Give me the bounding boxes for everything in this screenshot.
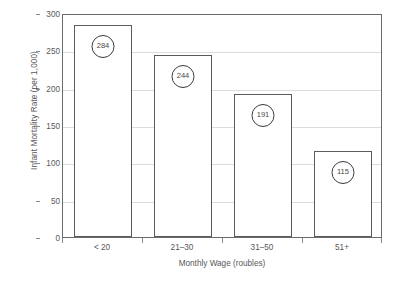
plot-area: 284244191115 [62, 14, 382, 238]
y-tick-mark [36, 89, 40, 90]
bar-chart-figure: Infant Mortality Rate (per 1,000) 050100… [0, 0, 402, 283]
bar[interactable]: 115 [314, 151, 372, 237]
x-tick-label: < 20 [94, 243, 110, 252]
bar-slot: 284 [63, 15, 143, 237]
y-tick-mark [36, 163, 40, 164]
y-axis-tick-labels: 050100150200250300 [36, 12, 60, 238]
bar-slot: 115 [303, 15, 383, 237]
bar-value-badge: 115 [332, 161, 355, 184]
y-tick-mark [36, 201, 40, 202]
bar-value-badge: 244 [172, 65, 195, 88]
bar[interactable]: 284 [74, 25, 132, 237]
y-tick-mark [36, 14, 40, 15]
bars-layer: 284244191115 [63, 15, 381, 237]
x-tick-label: 31–50 [251, 243, 274, 252]
x-axis-tick-labels: < 2021–3031–5051+ [62, 243, 382, 257]
y-tick-mark [36, 51, 40, 52]
bar-slot: 191 [223, 15, 303, 237]
x-tick-label: 21–30 [171, 243, 194, 252]
bar[interactable]: 191 [234, 94, 292, 237]
bar-value-badge: 284 [92, 35, 115, 58]
x-tick-label: 51+ [335, 243, 349, 252]
x-axis-title: Monthly Wage (roubles) [62, 259, 382, 268]
y-tick-mark [36, 126, 40, 127]
y-tick-mark [36, 238, 40, 239]
bar-slot: 244 [143, 15, 223, 237]
bar[interactable]: 244 [154, 55, 212, 237]
bar-value-badge: 191 [252, 104, 275, 127]
